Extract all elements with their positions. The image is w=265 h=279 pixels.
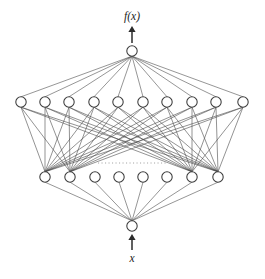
neural-network-figure: f(x) x xyxy=(0,0,265,279)
output-label: f(x) xyxy=(124,10,140,23)
diagram-labels: f(x) x xyxy=(0,0,265,279)
input-label: x xyxy=(128,252,135,264)
